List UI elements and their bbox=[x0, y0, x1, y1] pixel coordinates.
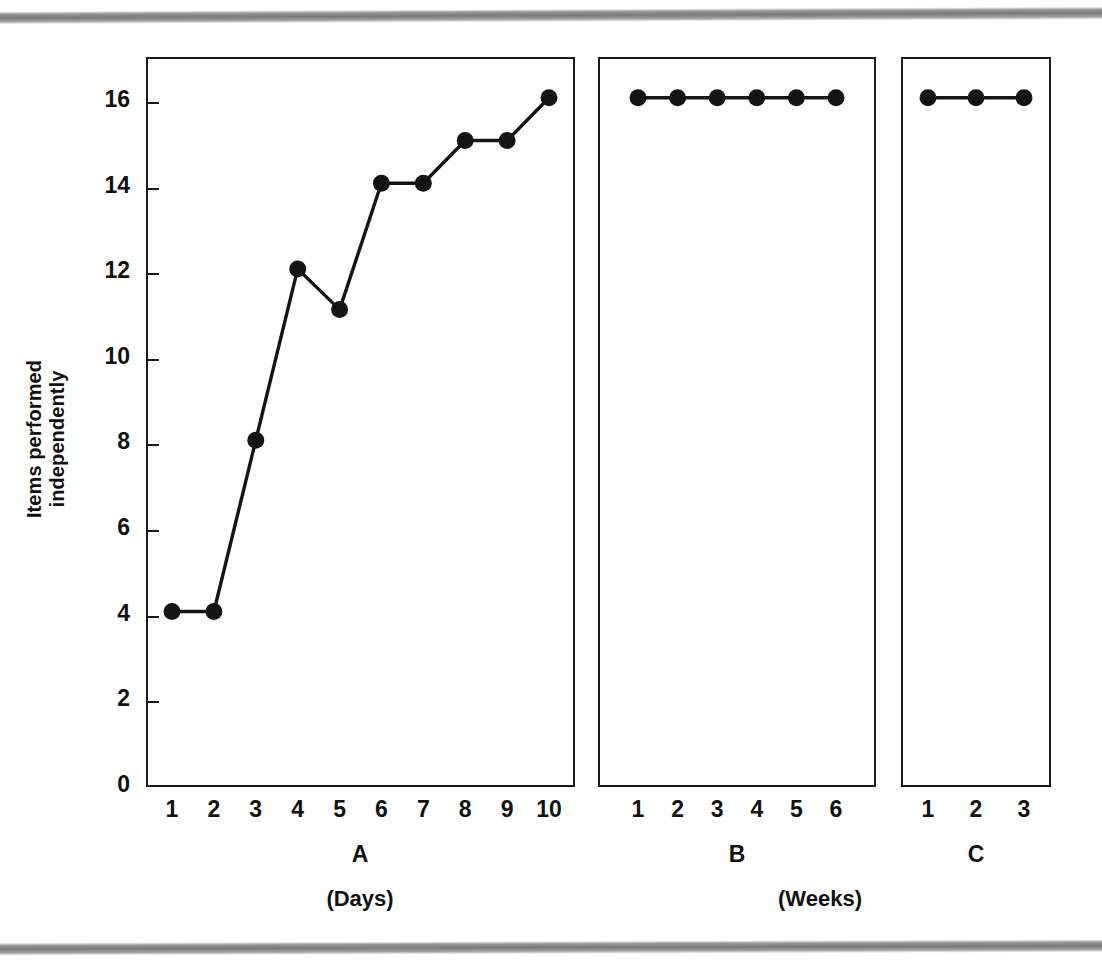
y-tick-label-6: 6 bbox=[74, 514, 130, 541]
y-tick-mark-4 bbox=[146, 616, 159, 618]
x-tick-label-a-2: 2 bbox=[192, 796, 236, 823]
y-tick-label-2: 2 bbox=[74, 685, 130, 712]
y-tick-label-4: 4 bbox=[74, 600, 130, 627]
x-tick-label-b-6: 6 bbox=[814, 796, 858, 823]
y-tick-label-14: 14 bbox=[74, 172, 130, 199]
y-tick-label-10: 10 bbox=[74, 343, 130, 370]
x-tick-label-b-1: 1 bbox=[616, 796, 660, 823]
x-tick-label-b-3: 3 bbox=[695, 796, 739, 823]
panel-letter-c: C bbox=[946, 841, 1006, 868]
x-tick-label-a-8: 8 bbox=[443, 796, 487, 823]
x-tick-label-a-1: 1 bbox=[150, 796, 194, 823]
y-tick-mark-6 bbox=[146, 530, 159, 532]
x-tick-label-a-7: 7 bbox=[401, 796, 445, 823]
y-tick-mark-8 bbox=[146, 444, 159, 446]
x-tick-label-b-4: 4 bbox=[735, 796, 779, 823]
y-tick-mark-16 bbox=[146, 102, 159, 104]
x-tick-label-a-5: 5 bbox=[318, 796, 362, 823]
y-tick-mark-14 bbox=[146, 188, 159, 190]
x-tick-label-c-2: 2 bbox=[954, 796, 998, 823]
y-tick-label-8: 8 bbox=[74, 428, 130, 455]
x-tick-label-a-9: 9 bbox=[485, 796, 529, 823]
unit-label-weeks: (Weeks) bbox=[720, 886, 920, 912]
panel-letter-a: A bbox=[330, 841, 390, 868]
x-tick-label-c-3: 3 bbox=[1002, 796, 1046, 823]
y-tick-label-12: 12 bbox=[74, 257, 130, 284]
panel-letter-b: B bbox=[707, 841, 767, 868]
figure-canvas: Items performed independently 0246810121… bbox=[0, 0, 1102, 971]
y-tick-mark-2 bbox=[146, 701, 159, 703]
unit-label-days: (Days) bbox=[260, 886, 460, 912]
x-tick-label-a-10: 10 bbox=[527, 796, 571, 823]
y-tick-mark-10 bbox=[146, 359, 159, 361]
plot-panel-a bbox=[146, 57, 575, 787]
y-axis-title: Items performed independently bbox=[23, 289, 69, 589]
x-tick-label-b-2: 2 bbox=[656, 796, 700, 823]
x-tick-label-c-1: 1 bbox=[906, 796, 950, 823]
page-edge-band-bottom bbox=[0, 939, 1102, 955]
plot-panel-b bbox=[598, 57, 876, 787]
x-tick-label-b-5: 5 bbox=[774, 796, 818, 823]
y-tick-mark-12 bbox=[146, 273, 159, 275]
x-tick-label-a-3: 3 bbox=[234, 796, 278, 823]
x-tick-label-a-4: 4 bbox=[276, 796, 320, 823]
y-tick-label-0: 0 bbox=[74, 771, 130, 798]
y-tick-label-16: 16 bbox=[74, 86, 130, 113]
page-edge-band-top bbox=[0, 7, 1102, 25]
plot-panel-c bbox=[901, 57, 1051, 787]
x-tick-label-a-6: 6 bbox=[359, 796, 403, 823]
